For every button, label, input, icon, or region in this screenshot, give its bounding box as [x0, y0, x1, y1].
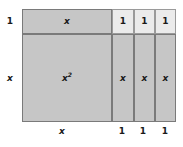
tile-unit-1: 1	[112, 9, 134, 34]
tile-x-vertical-1: x	[112, 34, 134, 122]
tile-x-vertical-3: x	[155, 34, 176, 122]
tile-x-squared-label: x2	[62, 74, 72, 83]
tile-x-vertical-2-label: x	[142, 74, 148, 83]
tile-unit-3: 1	[155, 9, 176, 34]
tile-x-vertical-1-label: x	[120, 74, 126, 83]
left-label-top-height: 1	[4, 17, 16, 26]
bottom-label-unit-2: 1	[136, 127, 150, 136]
tile-x-vertical-3-label: x	[163, 74, 169, 83]
bottom-label-unit-1: 1	[115, 127, 129, 136]
tile-unit-1-label: 1	[120, 17, 126, 26]
tile-unit-2-label: 1	[141, 17, 147, 26]
tile-x-horizontal-label: x	[64, 17, 70, 26]
tile-grid: x 1 1 1 x2 x x x	[22, 9, 176, 122]
bottom-label-unit-3: 1	[158, 127, 172, 136]
bottom-label-x-width: x	[55, 127, 69, 136]
algebra-tile-diagram: 1 x x 1 1 1 x 1 1 1 x2 x x	[0, 0, 183, 147]
tile-x-horizontal: x	[22, 9, 112, 34]
tile-x-squared: x2	[22, 34, 112, 122]
left-label-main-height: x	[4, 74, 16, 83]
tile-unit-3-label: 1	[162, 17, 168, 26]
tile-unit-2: 1	[134, 9, 155, 34]
tile-x-vertical-2: x	[134, 34, 155, 122]
